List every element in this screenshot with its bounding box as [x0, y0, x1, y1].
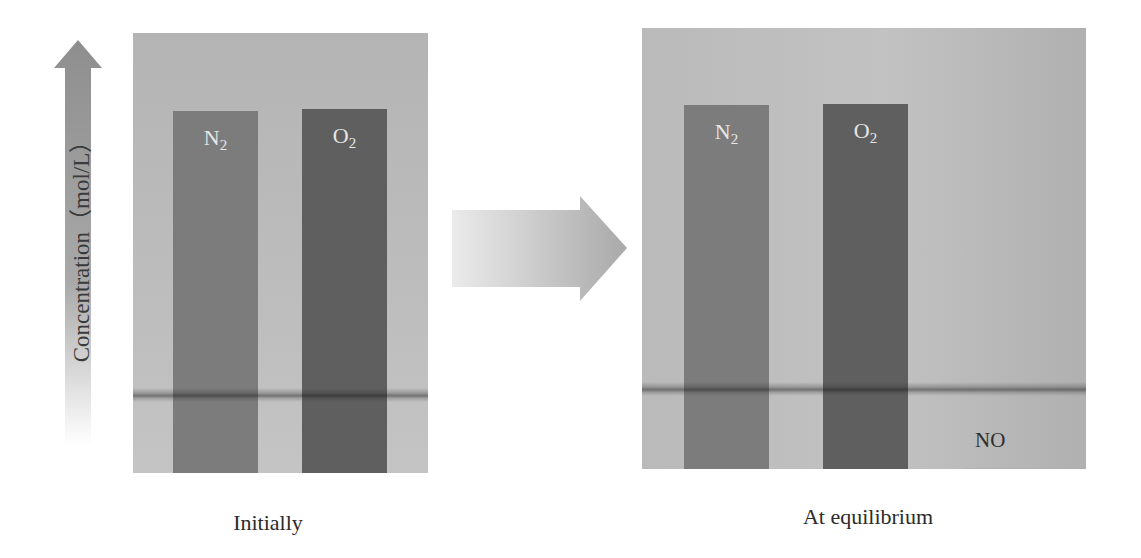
bar-label-no: NO [975, 428, 1005, 453]
reference-line [133, 388, 428, 402]
bar-o2-initial: O2 [302, 109, 387, 473]
caption-initially: Initially [233, 510, 303, 536]
bar-n2-initial: N2 [173, 111, 258, 473]
bar-label-o2: O2 [823, 118, 908, 144]
panel-equilibrium: N2 O2 NO [642, 28, 1086, 469]
bar-o2-equilibrium: O2 [823, 104, 908, 469]
bar-n2-equilibrium: N2 [684, 105, 769, 469]
bar-label-n2: N2 [173, 125, 258, 151]
bar-label-n2: N2 [684, 119, 769, 145]
right-arrow-icon [452, 196, 642, 301]
panel-initial: N2 O2 [133, 33, 428, 473]
y-axis-label: Concentration（mol/L） [62, 130, 96, 363]
caption-at-equilibrium: At equilibrium [803, 504, 933, 530]
bar-label-o2: O2 [302, 123, 387, 149]
reference-line [642, 382, 1086, 396]
bar-no-equilibrium [962, 468, 1086, 469]
